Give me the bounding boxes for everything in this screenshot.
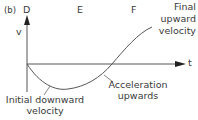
y-axis-label: v (16, 26, 22, 37)
region-label-e: E (77, 4, 83, 15)
initial-line-1: Initial downward (4, 94, 86, 105)
acceleration-annotation: Acceleration upwards (108, 79, 168, 101)
x-axis-label: t (188, 57, 192, 68)
final-velocity-annotation: Final upward velocity (159, 1, 196, 37)
acceleration-line-1: Acceleration (108, 79, 168, 90)
region-label-f: F (131, 4, 136, 15)
final-line-1: Final (159, 1, 196, 13)
initial-velocity-annotation: Initial downward velocity (4, 94, 86, 116)
initial-line-2: velocity (4, 105, 86, 116)
panel-label: (b) (4, 5, 16, 16)
final-line-3: velocity (159, 25, 196, 37)
region-label-d: D (23, 4, 30, 15)
v-axis-arrow-icon (24, 15, 30, 25)
t-axis-arrow-icon (175, 61, 186, 67)
acceleration-line-2: upwards (108, 90, 168, 101)
final-line-2: upward (159, 13, 196, 25)
